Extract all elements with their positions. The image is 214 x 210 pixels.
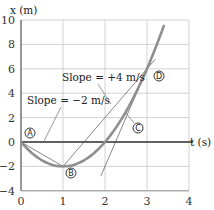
leader-line	[44, 107, 61, 141]
tick-labels: 012341086420−2−4	[0, 14, 193, 208]
x-tick-label: 2	[102, 195, 109, 208]
svg-text:B: B	[68, 169, 74, 178]
y-tick-label: 4	[8, 87, 15, 100]
x-tick-label: 4	[186, 195, 193, 208]
x-tick-label: 0	[18, 195, 25, 208]
slope-negative-label: Slope = −2 m/s	[27, 94, 110, 106]
slope-positive-label: Slope = +4 m/s	[62, 71, 145, 83]
svg-text:A: A	[27, 129, 33, 138]
x-tick-label: 1	[60, 195, 67, 208]
y-tick-label: 6	[8, 63, 15, 76]
y-tick-label: 2	[8, 112, 15, 125]
slope-line	[21, 142, 63, 166]
y-tick-label: 0	[8, 136, 15, 149]
x-tick-label: 3	[144, 195, 151, 208]
y-tick-label: 8	[8, 38, 15, 51]
y-tick-label: −2	[0, 160, 15, 173]
x-axis-label: t (s)	[190, 136, 211, 148]
y-axis-label: x (m)	[10, 4, 37, 16]
point-d-marker: D	[154, 71, 164, 81]
point-b-marker: B	[66, 168, 76, 178]
position-time-chart: 012341086420−2−4 x (m) t (s) Slope = +4 …	[0, 0, 214, 210]
point-a-marker: A	[25, 128, 35, 138]
point-c-marker: C	[133, 123, 143, 133]
svg-text:D: D	[156, 72, 162, 81]
y-tick-label: −4	[0, 185, 15, 198]
svg-text:C: C	[135, 124, 141, 133]
